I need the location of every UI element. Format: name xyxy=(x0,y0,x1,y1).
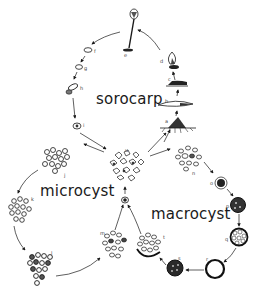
letter-r: r xyxy=(206,256,208,262)
letter-m: m xyxy=(100,230,105,236)
stage-d-early-fruiting-body xyxy=(168,52,179,69)
letter-b: b xyxy=(165,98,168,104)
stage-p-precyst xyxy=(231,198,246,213)
stage-l-germinating-microcysts xyxy=(28,253,53,286)
stage-g-germinating-spore xyxy=(76,65,83,70)
letter-g: g xyxy=(84,65,87,71)
stage-o-aggregate xyxy=(215,177,227,189)
letter-j: j xyxy=(64,172,65,178)
letter-q: q xyxy=(225,236,228,242)
stage-n-aggregating-cells xyxy=(176,146,202,171)
letter-c: c xyxy=(168,76,171,82)
letter-o: o xyxy=(210,180,213,186)
letter-u: u xyxy=(125,147,128,153)
stage-f-spore xyxy=(84,48,92,53)
life-cycle-diagram xyxy=(0,0,255,289)
stage-b-slug xyxy=(158,101,193,106)
label-microcyst: microcyst xyxy=(40,182,115,200)
stage-s-dark-macrocyst xyxy=(167,260,183,276)
letter-i: i xyxy=(83,122,84,128)
letter-h: h xyxy=(80,85,83,91)
letter-s: s xyxy=(178,255,181,261)
label-sorocarp: sorocarp xyxy=(96,90,163,108)
stage-k-microcysts xyxy=(9,197,32,223)
letter-l: l xyxy=(51,250,52,256)
stage-h-emerging-amoebae xyxy=(66,83,79,95)
letter-d: d xyxy=(160,58,163,64)
letter-f: f xyxy=(94,48,96,54)
letter-p: p xyxy=(226,203,229,209)
center-aggregation-center xyxy=(122,197,129,203)
stage-i-amoeba xyxy=(73,123,81,129)
letter-n: n xyxy=(192,170,195,176)
center-amoebae-population xyxy=(110,150,144,181)
letter-k: k xyxy=(31,196,34,202)
stage-r-mature-macrocyst xyxy=(206,260,224,278)
stage-t-germinated-macrocyst xyxy=(137,233,161,256)
label-macrocyst: macrocyst xyxy=(151,205,231,223)
stage-m-emerging-amoebae xyxy=(103,231,127,258)
stage-j-microcyst-cells xyxy=(43,148,70,174)
letter-e: e xyxy=(124,52,127,58)
stage-e-mature-sorocarp xyxy=(123,9,138,52)
letter-t: t xyxy=(163,234,165,240)
stage-q-macrocyst-cellular xyxy=(231,229,248,246)
letter-a: a xyxy=(165,118,168,124)
